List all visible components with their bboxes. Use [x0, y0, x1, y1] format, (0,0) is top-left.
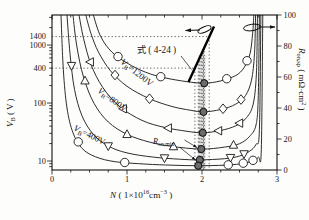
label-value: =400V — [81, 127, 108, 147]
min-point-VB=1200V — [200, 108, 207, 115]
axis-unit: ( 1×10 — [116, 190, 143, 200]
y-left-tick-label: 10 — [38, 157, 46, 166]
axis-unit: ( mΩ·cm — [297, 67, 307, 102]
x-tick-label: 0 — [50, 175, 54, 184]
label-value: =1200V — [126, 63, 155, 89]
ronmin-arrow-upper — [185, 140, 198, 148]
y-left-tick-label: 1400 — [29, 32, 46, 41]
curve-VB=1000V — [79, 15, 258, 133]
x-axis-title: N ( 1×1016cm−3 ) — [109, 188, 172, 199]
axis-subscript: on,sp — [296, 54, 303, 67]
figure: 式 ( 4-24 ) VB=1200V VB=800V VB=400V Ron,… — [0, 0, 309, 220]
equation-label: 式 ( 4-24 ) — [137, 44, 176, 56]
marker-circle — [223, 75, 231, 83]
label-subscript: on,min — [158, 141, 174, 147]
marker-triangle-up — [123, 130, 131, 138]
y-right-tick-label: 60 — [284, 73, 292, 82]
min-point-VB=400V — [195, 162, 202, 169]
marker-triangle-down — [240, 151, 248, 159]
left-arrow-icon — [186, 30, 201, 31]
marker-diamond — [146, 94, 154, 104]
marker-triangle-left — [164, 124, 172, 132]
ronmin-label: Ron,min — [152, 137, 174, 147]
x-tick-label: 1 — [125, 175, 129, 184]
min-point-VB=1000V — [199, 129, 206, 136]
left-axis-indicator — [186, 24, 213, 34]
superjunction-tradeoff-chart: 式 ( 4-24 ) VB=1200V VB=800V VB=400V Ron,… — [0, 0, 309, 220]
axis-unit-close: ) — [167, 190, 172, 200]
marker-circle — [114, 52, 122, 60]
curve-label-1200v: VB=1200V — [118, 57, 156, 90]
curve-loop-icon — [243, 23, 261, 32]
axis-unit-close: ) — [297, 105, 307, 110]
y-right-tick-label: 40 — [284, 104, 292, 113]
y-right-tick-label: 20 — [284, 135, 292, 144]
marker-diamond — [219, 104, 227, 114]
axis-superscript: −3 — [160, 188, 167, 195]
curve-label-800v: VB=800V — [95, 86, 130, 115]
x-tick-label: 3 — [275, 175, 279, 184]
x-tick-label: 2 — [200, 175, 204, 184]
min-point-VB=800V — [198, 145, 205, 152]
marker-circle — [157, 72, 165, 80]
y-left-tick-label: 400 — [34, 64, 46, 73]
y-left-tick-label: 1000 — [29, 41, 46, 50]
marker-circle — [224, 161, 232, 169]
y-left-tick-label: 100 — [34, 99, 46, 108]
min-point-VB=1400V — [201, 80, 208, 87]
marker-triangle-left — [214, 127, 222, 135]
marker-circle — [239, 159, 247, 167]
marker-triangle-up — [81, 76, 89, 84]
chart-guides-layer — [52, 37, 209, 170]
marker-circle — [243, 57, 251, 65]
ronmin-arrow-lower — [180, 148, 196, 161]
axis-unit: cm — [149, 190, 160, 200]
axis-unit: ( V ) — [5, 98, 15, 117]
equation-leader-line — [181, 56, 192, 70]
y-right-tick-label: 80 — [284, 42, 292, 51]
right-axis-title: Ron,sp ( mΩ·cm2 ) — [296, 47, 308, 111]
marker-circle — [121, 158, 129, 166]
y-right-tick-label: 0 — [284, 166, 288, 175]
plot-frame — [52, 15, 277, 170]
marker-circle — [249, 156, 257, 164]
marker-triangle-down — [67, 62, 75, 70]
left-axis-title: VB ( V ) — [5, 98, 16, 127]
marker-triangle-down — [104, 143, 112, 151]
y-right-tick-label: 100 — [284, 11, 296, 20]
marker-circle — [74, 138, 82, 146]
